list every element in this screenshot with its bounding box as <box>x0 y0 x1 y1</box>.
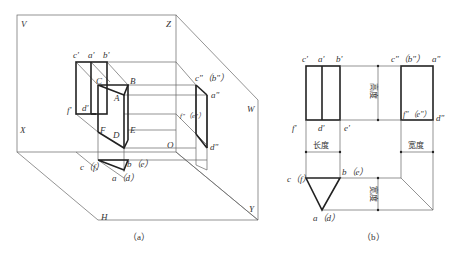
label-a-d-top: a（d） <box>112 173 139 183</box>
label-vertex-e: E <box>129 125 136 135</box>
label-b-b-prime: b' <box>336 54 344 64</box>
label-f-e-side: f"（e"） <box>180 112 205 120</box>
dim-width-bottom: 宽度 <box>369 186 379 202</box>
dim-width-right: 宽度 <box>408 140 424 150</box>
label-vertex-d: D <box>112 130 120 140</box>
figure-b: c' a' b' f' d' e' c"（b"） a" f"（e"） d" c（… <box>287 54 445 242</box>
label-c-f-top: c（f） <box>80 162 105 172</box>
label-b-c-prime: c' <box>302 54 309 64</box>
dim-height: 高度 <box>369 83 379 99</box>
front-view-a <box>76 62 107 114</box>
label-w-plane: W <box>247 104 256 114</box>
front-view-b <box>306 66 340 120</box>
label-vertex-a: A <box>113 93 120 103</box>
label-d-prime: d' <box>82 103 90 113</box>
orthographic-projection-diagram: V Z W X O H Y c' a' b' f' d' C B A F D E… <box>0 0 457 253</box>
label-b-d-side: d" <box>436 113 445 123</box>
label-a-prime: a' <box>88 50 96 60</box>
label-b-e-top: b（e） <box>127 159 154 169</box>
label-a-side: a" <box>211 90 220 100</box>
label-b-a-side: a" <box>432 54 441 64</box>
label-b-d-prime: d' <box>318 123 326 133</box>
oy-axis-line <box>176 152 258 220</box>
label-vertex-b: B <box>130 76 136 86</box>
label-b-c-f-top: c（f） <box>287 174 312 184</box>
label-b-a-prime: a' <box>318 54 326 64</box>
caption-a: （a） <box>128 232 150 242</box>
label-b-f-prime: f' <box>292 123 298 133</box>
label-b-b-e-top: b（e） <box>342 167 369 177</box>
label-b-c-b-side: c"（b"） <box>391 54 425 64</box>
label-h-plane: H <box>100 212 108 222</box>
label-vertex-c: C <box>96 76 103 86</box>
label-vertex-f: F <box>99 125 106 135</box>
label-b-a-d-top: a（d） <box>313 213 340 223</box>
caption-b: （b） <box>362 232 385 242</box>
label-b-f-e-side: f"（e"） <box>403 110 432 119</box>
label-d-side: d" <box>210 142 219 152</box>
figure-a: V Z W X O H Y c' a' b' f' d' C B A F D E… <box>17 15 258 242</box>
label-c-b-side: c"（b"） <box>195 73 229 83</box>
label-b-e-prime: e' <box>344 123 351 133</box>
label-x-axis: X <box>19 125 26 135</box>
label-y-axis: Y <box>249 204 255 214</box>
label-o-origin: O <box>167 140 174 150</box>
label-c-prime: c' <box>73 50 80 60</box>
label-z-axis: Z <box>166 19 172 29</box>
dim-length: 长度 <box>313 140 329 150</box>
label-v-plane: V <box>21 19 28 29</box>
label-b-prime: b' <box>103 50 111 60</box>
label-f-prime: f' <box>67 105 73 115</box>
